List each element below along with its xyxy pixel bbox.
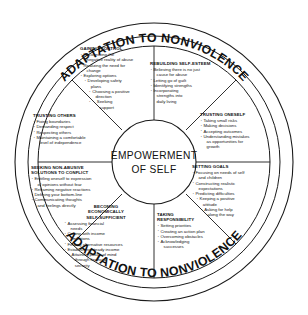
center-label-line2: OF SELF	[132, 164, 177, 175]
sector-bullet-item: growth	[200, 144, 280, 149]
sector-trusting-others: TRUSTING OTHERS Fixing boundariesDemandi…	[33, 113, 117, 145]
sector-bullets: Focusing on needs of selfand childrenCon…	[192, 170, 276, 217]
sector-bullet-item: support	[80, 105, 154, 110]
sector-gaining-control: GAINING CONTROL Recognizing thenegative …	[80, 46, 154, 110]
sector-seeking-non-abusive-solutions: SEEKING NON-ABUSIVE SOLUTIONS TO CONFLIC…	[31, 165, 125, 208]
sector-setting-goals: SETTING GOALS Focusing on needs of selfa…	[192, 164, 276, 217]
sector-bullet-item: daily living	[150, 99, 226, 104]
sector-bullets: Recognizing thenegative reality of abuse…	[80, 52, 154, 110]
sector-taking-responsibility: TAKING RESPONSIBILITY Setting priorities…	[157, 212, 225, 250]
sector-bullet-item: successes	[157, 244, 225, 249]
sector-bullets: Fixing boundariesDemanding respectRespec…	[33, 119, 117, 145]
sector-bullets: Assessing financialneedsCoping with inco…	[58, 221, 154, 268]
sector-title: TRUSTING OTHERS	[33, 113, 117, 118]
sector-bullets: Taking small risksMaking decisionsAccept…	[200, 118, 280, 150]
sector-bullets: Setting prioritiesCreating an action pla…	[157, 223, 225, 249]
sector-becoming-economically-self-sufficient: BECOMING ECONOMICALLY SELF-SUFFICIENT As…	[58, 204, 154, 268]
sector-rebuilding-self-esteem: REBUILDING SELF-ESTEEM Believing there i…	[150, 61, 226, 104]
sector-title: TRUSTING ONESELF	[200, 112, 280, 117]
sector-bullet-item: level of independence	[33, 140, 117, 145]
wheel-diagram: ADAPTATION TO NONVIOLENCE ADAPTATION TO …	[0, 0, 308, 315]
sector-bullets: Believing there is no justcause for abus…	[150, 67, 226, 104]
sector-title: TAKING RESPONSIBILITY	[157, 212, 225, 223]
sector-title: REBUILDING SELF-ESTEEM	[150, 61, 226, 66]
sector-bullet-item: and feelings directly	[31, 203, 125, 208]
sector-bullets: Entitling oneself to expressionof opinio…	[31, 176, 125, 208]
sector-bullet-item: security	[64, 263, 154, 268]
center-label-line1: EMPOWERMENT	[111, 150, 197, 161]
sector-title: SEEKING NON-ABUSIVE SOLUTIONS TO CONFLIC…	[31, 165, 125, 176]
sector-title: SETTING GOALS	[192, 164, 276, 169]
sector-trusting-oneself: TRUSTING ONESELF Taking small risksMakin…	[200, 112, 280, 150]
sector-title: GAINING CONTROL	[80, 46, 154, 51]
